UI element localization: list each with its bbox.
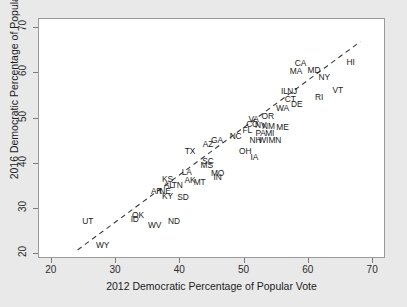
x-axis-tick-label: 20	[45, 264, 56, 275]
y-axis-tick	[33, 72, 38, 73]
x-axis-tick-label: 50	[238, 264, 249, 275]
data-point-label: MN	[268, 135, 281, 145]
x-axis-tick	[51, 258, 52, 263]
data-point-label: SD	[177, 192, 188, 202]
data-point-label: NH	[250, 135, 262, 145]
data-point-label: VT	[333, 85, 344, 95]
x-axis-tick	[372, 258, 373, 263]
x-axis-tick	[179, 258, 180, 263]
data-point-label: NY	[319, 72, 330, 82]
data-point-label: WV	[148, 220, 161, 230]
data-point-label: KY	[162, 191, 173, 201]
data-point-label: AZ	[203, 139, 214, 149]
data-point-label: MA	[290, 66, 302, 76]
data-point-label: WY	[96, 240, 109, 250]
data-point-label: WA	[276, 103, 289, 113]
y-axis-tick	[33, 253, 38, 254]
plot-area: HICAMDMANYVTRIILNJCTDEWAORVAMENMNVCOMIPA…	[39, 19, 384, 257]
y-axis-tick	[33, 163, 38, 164]
x-axis-tick-label: 30	[110, 264, 121, 275]
y-axis-tick	[33, 208, 38, 209]
x-axis-tick	[308, 258, 309, 263]
y-axis-tick	[33, 27, 38, 28]
data-point-label: UT	[82, 216, 93, 226]
y-axis-tick-label: 70	[14, 20, 30, 34]
data-point-label: HI	[347, 57, 355, 67]
x-axis-tick-label: 60	[302, 264, 313, 275]
data-point-label: ID	[131, 214, 139, 224]
x-axis-tick	[115, 258, 116, 263]
y-axis-tick-label: 50	[14, 111, 30, 125]
y-axis-tick-label: 20	[14, 246, 30, 260]
x-axis-tick-label: 70	[367, 264, 378, 275]
data-point-label: ND	[168, 216, 180, 226]
data-point-label: RI	[315, 92, 323, 102]
y-axis-tick-label: 40	[14, 156, 30, 170]
x-axis-title: 2012 Democratic Percentage of Popular Vo…	[38, 280, 385, 292]
y-axis-tick-label: 60	[14, 65, 30, 79]
data-point-label: MT	[194, 177, 206, 187]
data-point-label: FL	[242, 125, 252, 135]
data-point-label: TX	[185, 146, 196, 156]
y-axis-tick	[33, 118, 38, 119]
data-point-label: AR	[151, 186, 162, 196]
y-axis-tick-label: 30	[14, 201, 30, 215]
data-point-label: NC	[230, 131, 242, 141]
data-point-label: DE	[291, 99, 302, 109]
data-point-label: ME	[276, 122, 288, 132]
data-point-label: IN	[214, 172, 222, 182]
data-point-label: IA	[250, 152, 258, 162]
scatter-plot-figure: HICAMDMANYVTRIILNJCTDEWAORVAMENMNVCOMIPA…	[0, 0, 407, 307]
x-axis-tick-label: 40	[174, 264, 185, 275]
x-axis-tick	[244, 258, 245, 263]
plot-frame: HICAMDMANYVTRIILNJCTDEWAORVAMENMNVCOMIPA…	[38, 18, 385, 258]
